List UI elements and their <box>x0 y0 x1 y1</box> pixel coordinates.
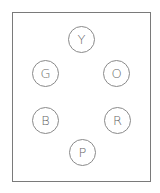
node-label: Y <box>78 32 86 47</box>
node-p: P <box>69 139 96 166</box>
node-label: G <box>40 66 50 81</box>
node-y: Y <box>68 26 95 53</box>
node-g: G <box>32 60 59 87</box>
node-label: P <box>79 145 87 160</box>
node-r: R <box>104 107 131 134</box>
node-b: B <box>32 107 59 134</box>
node-o: O <box>103 60 130 87</box>
node-label: O <box>111 66 121 81</box>
node-label: R <box>113 113 122 128</box>
node-label: B <box>41 113 50 128</box>
